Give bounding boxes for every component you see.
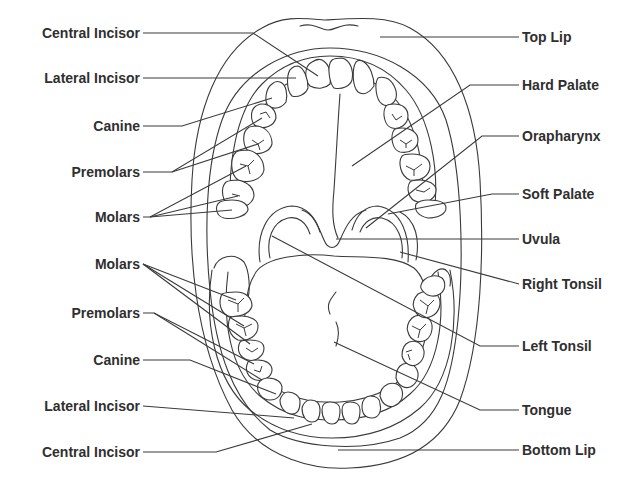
label-canine-upper: Canine	[93, 118, 140, 134]
tooth-lower-central-incisor-left	[302, 400, 320, 422]
label-molars-upper: Molars	[95, 209, 140, 225]
label-premolars-upper: Premolars	[72, 164, 141, 180]
label-central-incisor-upper: Central Incisor	[42, 25, 141, 41]
tooth-upper-premolar-right-1	[384, 104, 408, 128]
soft-palate-arch-left	[259, 206, 320, 262]
label-canine-lower: Canine	[93, 352, 140, 368]
label-lateral-incisor-upper: Lateral Incisor	[44, 70, 140, 86]
tooth-lower-canine-left	[258, 378, 282, 400]
label-tongue: Tongue	[522, 402, 572, 418]
tooth-upper-molar-right-3	[416, 200, 447, 218]
tooth-lower-central-incisor-mid-2	[342, 402, 360, 424]
tooth-upper-canine-left	[266, 82, 287, 108]
label-orapharynx: Orapharynx	[522, 128, 601, 144]
hard-palate-raphe	[333, 94, 340, 238]
tooth-lower-canine-right	[380, 383, 403, 406]
tooth-upper-premolar-left-2	[244, 126, 272, 154]
tooth-lower-central-incisor-mid-1	[322, 402, 340, 424]
mouth-anatomy-diagram: Central Incisor Lateral Incisor Canine P…	[0, 0, 636, 496]
tooth-upper-lateral-incisor-right	[353, 61, 374, 94]
labels-left: Central Incisor Lateral Incisor Canine P…	[42, 25, 141, 460]
tooth-lower-premolar-right-2	[402, 341, 424, 365]
leader-lines	[143, 33, 519, 452]
label-soft-palate: Soft Palate	[522, 186, 595, 202]
tooth-lower-premolar-left-2	[246, 360, 272, 380]
tooth-upper-central-incisor-left	[306, 59, 331, 88]
label-bottom-lip: Bottom Lip	[522, 442, 596, 458]
label-molars-lower: Molars	[95, 256, 140, 272]
label-top-lip: Top Lip	[522, 29, 572, 45]
upper-teeth	[217, 58, 446, 219]
leader-molars-lower-a	[143, 264, 236, 300]
label-hard-palate: Hard Palate	[522, 77, 599, 93]
tooth-lower-premolar-right-1	[396, 363, 418, 387]
tongue-median-groove	[328, 292, 338, 346]
right-tonsil-outline	[360, 218, 402, 258]
leader-soft-palate	[388, 194, 519, 214]
label-premolars-lower: Premolars	[72, 305, 141, 321]
tooth-lower-molar-right-3	[421, 276, 445, 296]
leader-lateral-incisor-lower	[143, 406, 294, 418]
lower-teeth	[220, 276, 445, 424]
tooth-upper-molar-right-1	[400, 154, 430, 180]
label-left-tonsil: Left Tonsil	[522, 338, 592, 354]
labels-right: Top Lip Hard Palate Orapharynx Soft Pala…	[522, 29, 602, 458]
label-right-tonsil: Right Tonsil	[522, 276, 602, 292]
label-uvula: Uvula	[522, 231, 560, 247]
tooth-lower-premolar-left-1	[238, 340, 264, 360]
leader-tongue	[334, 342, 519, 410]
leader-right-tonsil	[400, 252, 519, 284]
tooth-upper-canine-right	[376, 77, 396, 105]
tooth-lower-lateral-incisor-right	[362, 396, 381, 418]
label-central-incisor-lower: Central Incisor	[42, 444, 141, 460]
top-lip-dip	[300, 25, 358, 30]
label-lateral-incisor-lower: Lateral Incisor	[44, 398, 140, 414]
tooth-upper-premolar-right-2	[392, 128, 418, 152]
tooth-upper-molar-left-3	[217, 200, 248, 219]
tooth-upper-central-incisor-right	[329, 58, 353, 89]
tooth-upper-lateral-incisor-left	[288, 66, 309, 97]
